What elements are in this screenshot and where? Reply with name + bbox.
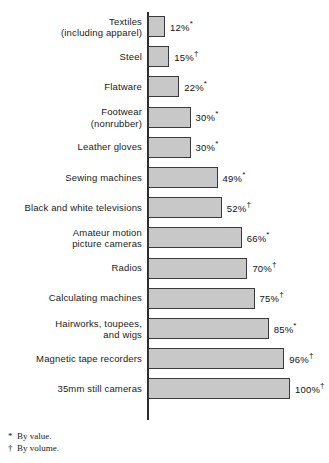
bar-value-label: 22%*: [184, 81, 207, 92]
bar-row: Radios70%†: [0, 258, 329, 279]
bar: [148, 227, 242, 248]
footnote-marker: *: [8, 430, 17, 442]
value-footnote-marker: †: [272, 260, 277, 269]
bar: [148, 318, 269, 339]
bar-value-label: 15%†: [174, 51, 198, 62]
value-footnote-marker: †: [194, 49, 199, 58]
category-label: Radios: [112, 262, 142, 274]
bar-value-label: 12%*: [170, 21, 193, 32]
footnote-item: *By value.: [8, 430, 59, 442]
footnote-text: By volume.: [17, 443, 59, 453]
category-label: Black and white televisions: [24, 202, 142, 214]
bar-row: Calculating machines75%†: [0, 288, 329, 309]
bar: [148, 167, 218, 188]
bar-row: Magnetic tape recorders96%†: [0, 348, 329, 369]
bar-row: Black and white televisions52%†: [0, 197, 329, 218]
bar-row: Leather gloves30%*: [0, 137, 329, 158]
bar: [148, 107, 191, 128]
category-label: Magnetic tape recorders: [36, 353, 142, 365]
bar-row: Amateur motion picture cameras66%*: [0, 227, 329, 248]
bar-row: Footwear (nonrubber)30%*: [0, 107, 329, 128]
value-footnote-marker: *: [204, 79, 207, 88]
category-label: Flatware: [104, 81, 142, 93]
bar-row: Hairworks, toupees, and wigs85%*: [0, 318, 329, 339]
value-footnote-marker: *: [190, 19, 193, 28]
category-label: Sewing machines: [65, 172, 142, 184]
bar: [148, 16, 165, 37]
category-label: Textiles (including apparel): [61, 15, 142, 38]
bar: [148, 197, 222, 218]
bar-row: Textiles (including apparel)12%*: [0, 16, 329, 37]
bar-value-label: 96%†: [289, 353, 313, 364]
footnote-marker: †: [8, 442, 17, 454]
value-footnote-marker: *: [266, 230, 269, 239]
bar-value-label: 75%†: [260, 293, 284, 304]
bar-row: 35mm still cameras100%†: [0, 378, 329, 399]
footnote-list: *By value. †By volume.: [8, 430, 59, 454]
clipped-title-remnant: [0, 0, 329, 8]
bar: [148, 46, 169, 67]
value-footnote-marker: *: [293, 321, 296, 330]
bar-row: Flatware22%*: [0, 76, 329, 97]
bar-value-label: 70%†: [252, 263, 276, 274]
category-label: 35mm still cameras: [57, 383, 142, 395]
bar-value-label: 30%*: [196, 142, 219, 153]
category-label: Footwear (nonrubber): [91, 106, 142, 129]
plot-area: Textiles (including apparel)12%*Steel15%…: [0, 12, 329, 422]
value-footnote-marker: *: [242, 170, 245, 179]
bar-chart: Textiles (including apparel)12%*Steel15%…: [0, 0, 329, 463]
footnote-text: By value.: [17, 431, 52, 441]
bar-value-label: 66%*: [247, 232, 270, 243]
bar: [148, 258, 247, 279]
bar-row: Sewing machines49%*: [0, 167, 329, 188]
bar: [148, 137, 191, 158]
value-footnote-marker: †: [246, 200, 251, 209]
category-label: Amateur motion picture cameras: [72, 226, 142, 249]
category-label: Calculating machines: [49, 293, 142, 305]
bar: [148, 378, 290, 399]
bar: [148, 348, 284, 369]
bar-value-label: 30%*: [196, 112, 219, 123]
category-label: Leather gloves: [78, 142, 142, 154]
value-footnote-marker: †: [309, 351, 314, 360]
category-label: Steel: [120, 51, 142, 63]
bar: [148, 288, 255, 309]
bar-value-label: 52%†: [227, 202, 251, 213]
bar-value-label: 100%†: [295, 383, 325, 394]
value-footnote-marker: *: [215, 109, 218, 118]
bar-value-label: 85%*: [274, 323, 297, 334]
bar-row: Steel15%†: [0, 46, 329, 67]
bar-value-label: 49%*: [223, 172, 246, 183]
bar: [148, 76, 179, 97]
category-label: Hairworks, toupees, and wigs: [55, 317, 142, 340]
value-footnote-marker: †: [279, 291, 284, 300]
footnote-item: †By volume.: [8, 442, 59, 454]
value-footnote-marker: *: [215, 140, 218, 149]
value-footnote-marker: †: [320, 381, 325, 390]
